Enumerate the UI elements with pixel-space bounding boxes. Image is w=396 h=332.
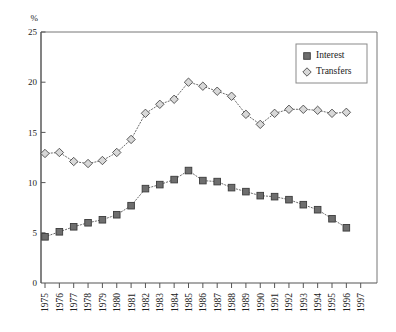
data-point-interest — [228, 184, 235, 191]
data-point-transfers — [98, 156, 106, 164]
data-point-transfers — [55, 148, 63, 156]
data-point-interest — [185, 167, 192, 174]
data-point-interest — [257, 192, 264, 199]
data-point-transfers — [41, 149, 49, 157]
x-tick-label: 1984 — [170, 293, 180, 312]
data-point-interest — [99, 216, 106, 223]
x-tick-label: 1989 — [241, 293, 251, 312]
x-tick-label: 1981 — [127, 293, 137, 312]
y-tick-label: 20 — [28, 77, 38, 87]
data-point-interest — [70, 223, 77, 230]
x-tick-label: 1986 — [198, 293, 208, 312]
x-tick-label: 1976 — [55, 293, 65, 312]
series-lines — [45, 82, 346, 237]
data-point-interest — [271, 193, 278, 200]
data-point-transfers — [299, 105, 307, 113]
data-point-transfers — [313, 106, 321, 114]
data-point-interest — [314, 206, 321, 213]
data-point-interest — [128, 202, 135, 209]
data-point-interest — [300, 201, 307, 208]
y-tick-label: 15 — [28, 128, 38, 138]
x-tick-label: 1982 — [141, 293, 151, 312]
series-markers — [41, 78, 351, 240]
chart-figure: 0510152025 19751976197719781979198019811… — [0, 0, 396, 332]
series-line-transfers — [45, 82, 346, 163]
x-tick-label: 1977 — [69, 293, 79, 312]
x-tick-label: 1994 — [313, 293, 323, 312]
data-point-transfers — [199, 82, 207, 90]
data-point-interest — [286, 196, 293, 203]
data-point-interest — [42, 234, 49, 241]
x-tick-label: 1995 — [327, 293, 337, 312]
data-point-interest — [56, 228, 63, 235]
legend-label-interest: Interest — [316, 50, 345, 60]
y-axis-unit-label: % — [31, 13, 39, 23]
data-point-interest — [329, 215, 336, 222]
chart-legend: InterestTransfers — [296, 44, 367, 83]
data-point-interest — [171, 176, 178, 183]
x-tick-label: 1980 — [112, 293, 122, 312]
data-point-interest — [343, 224, 350, 231]
y-tick-label: 10 — [28, 178, 38, 188]
data-point-transfers — [70, 157, 78, 165]
data-point-transfers — [270, 109, 278, 117]
x-tick-label: 1997 — [356, 293, 366, 312]
x-tick-label: 1991 — [270, 293, 280, 312]
data-point-transfers — [127, 135, 135, 143]
x-tick-label: 1983 — [155, 293, 165, 312]
legend-label-transfers: Transfers — [316, 66, 352, 76]
data-point-transfers — [156, 100, 164, 108]
legend-marker-interest — [304, 53, 311, 60]
x-tick-label: 1992 — [284, 293, 294, 312]
data-point-transfers — [285, 105, 293, 113]
data-point-interest — [243, 188, 250, 195]
data-point-transfers — [342, 108, 350, 116]
y-tick-label: 0 — [33, 278, 38, 288]
x-axis-ticks: 1975197619771978197919801981198219831984… — [40, 283, 366, 312]
x-tick-label: 1988 — [227, 293, 237, 312]
data-point-transfers — [328, 109, 336, 117]
y-axis-ticks: 0510152025 — [28, 27, 46, 288]
x-tick-label: 1978 — [83, 293, 93, 312]
data-point-interest — [200, 177, 207, 184]
x-tick-label: 1985 — [184, 293, 194, 312]
y-tick-label: 25 — [28, 27, 38, 37]
x-tick-label: 1975 — [40, 293, 50, 312]
data-point-interest — [113, 211, 120, 218]
data-point-interest — [214, 178, 221, 185]
x-tick-label: 1996 — [342, 293, 352, 312]
x-tick-label: 1987 — [213, 293, 223, 312]
y-tick-label: 5 — [33, 228, 38, 238]
chart-canvas: 0510152025 19751976197719781979198019811… — [0, 0, 396, 332]
x-tick-label: 1993 — [299, 293, 309, 312]
data-point-interest — [142, 185, 149, 192]
data-point-transfers — [256, 120, 264, 128]
data-point-interest — [157, 181, 164, 188]
data-point-transfers — [213, 87, 221, 95]
data-point-transfers — [141, 109, 149, 117]
x-tick-label: 1979 — [98, 293, 108, 312]
data-point-transfers — [84, 159, 92, 167]
x-tick-label: 1990 — [256, 293, 266, 312]
data-point-interest — [85, 219, 92, 226]
